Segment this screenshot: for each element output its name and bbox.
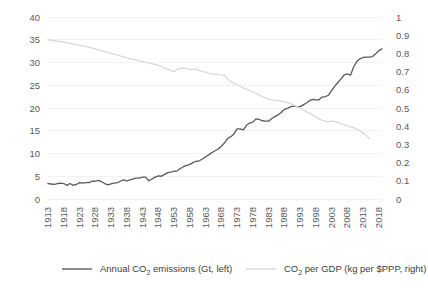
series-line bbox=[48, 49, 382, 186]
x-axis-tick-label: 1973 bbox=[231, 207, 242, 228]
legend-label-suffix: per GDP (kg per $PPP, right) bbox=[302, 263, 426, 274]
chart-container: 0510152025303540 00.10.20.30.40.50.60.70… bbox=[0, 0, 428, 290]
y-axis-left-tick-label: 0 bbox=[35, 194, 40, 205]
legend-label: CO2 per GDP (kg per $PPP, right) bbox=[284, 263, 426, 276]
y-axis-left-tick-label: 15 bbox=[29, 125, 40, 136]
chart-legend: Annual CO2 emissions (Gt, left)CO2 per G… bbox=[62, 263, 426, 276]
y-axis-left-ticks: 0510152025303540 bbox=[29, 12, 40, 205]
y-axis-left-tick-label: 25 bbox=[29, 80, 40, 91]
x-axis-tick-label: 1983 bbox=[263, 207, 274, 228]
y-axis-right-tick-label: 0.4 bbox=[396, 121, 409, 132]
x-axis-tick-label: 1943 bbox=[137, 207, 148, 228]
x-axis-tick-label: 1963 bbox=[200, 207, 211, 228]
y-axis-right-tick-label: 0.2 bbox=[396, 157, 409, 168]
x-axis-tick-label: 1998 bbox=[310, 207, 321, 228]
y-axis-left-tick-label: 10 bbox=[29, 148, 40, 159]
x-axis-tick-label: 1938 bbox=[121, 207, 132, 228]
x-axis-tick-label: 1933 bbox=[105, 207, 116, 228]
y-axis-left-tick-label: 30 bbox=[29, 57, 40, 68]
x-axis-tick-label: 1968 bbox=[215, 207, 226, 228]
x-axis-tick-label: 2003 bbox=[326, 207, 337, 228]
x-axis-tick-label: 2013 bbox=[357, 207, 368, 228]
x-axis-tick-label: 1923 bbox=[74, 207, 85, 228]
legend-label-prefix: Annual CO bbox=[100, 263, 146, 274]
x-axis-tick-label: 1913 bbox=[42, 207, 53, 228]
x-axis-tick-label: 1928 bbox=[89, 207, 100, 228]
y-axis-right-tick-label: 0.6 bbox=[396, 84, 409, 95]
y-axis-left-tick-label: 5 bbox=[35, 171, 40, 182]
gridlines bbox=[48, 17, 382, 199]
y-axis-right-tick-label: 1 bbox=[396, 12, 401, 23]
legend-label: Annual CO2 emissions (Gt, left) bbox=[100, 263, 232, 276]
x-axis-tick-label: 2008 bbox=[341, 207, 352, 228]
x-axis-tick-label: 1948 bbox=[152, 207, 163, 228]
y-axis-right-tick-label: 0.5 bbox=[396, 103, 409, 114]
y-axis-right-tick-label: 0.1 bbox=[396, 175, 409, 186]
x-axis-tick-label: 1978 bbox=[247, 207, 258, 228]
y-axis-left-tick-label: 20 bbox=[29, 103, 40, 114]
x-axis-tick-label: 1993 bbox=[294, 207, 305, 228]
x-axis-tick-label: 1988 bbox=[278, 207, 289, 228]
co2-emissions-line-chart: 0510152025303540 00.10.20.30.40.50.60.70… bbox=[0, 0, 428, 290]
series-line bbox=[48, 40, 369, 139]
y-axis-right-tick-label: 0.9 bbox=[396, 30, 409, 41]
x-axis-tick-label: 1918 bbox=[58, 207, 69, 228]
legend-label-prefix: CO bbox=[284, 263, 298, 274]
legend-label-suffix: emissions (Gt, left) bbox=[150, 263, 232, 274]
y-axis-right-tick-label: 0.7 bbox=[396, 66, 409, 77]
y-axis-right-ticks: 00.10.20.30.40.50.60.70.80.91 bbox=[396, 12, 409, 205]
x-axis-tick-label: 1958 bbox=[184, 207, 195, 228]
series-lines bbox=[48, 40, 382, 186]
y-axis-left-tick-label: 40 bbox=[29, 12, 40, 23]
y-axis-left-tick-label: 35 bbox=[29, 34, 40, 45]
x-axis-tick-label: 2018 bbox=[373, 207, 384, 228]
x-axis-tick-label: 1953 bbox=[168, 207, 179, 228]
x-axis-ticks: 1913191819231928193319381943194819531958… bbox=[42, 207, 384, 228]
y-axis-right-tick-label: 0 bbox=[396, 194, 401, 205]
y-axis-right-tick-label: 0.3 bbox=[396, 139, 409, 150]
y-axis-right-tick-label: 0.8 bbox=[396, 48, 409, 59]
